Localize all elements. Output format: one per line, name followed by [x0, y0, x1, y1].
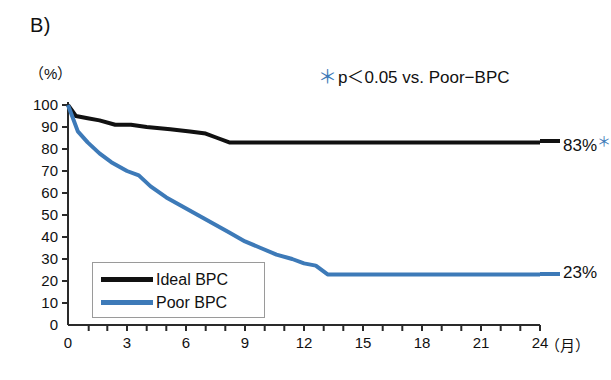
- legend-swatch-poor-bpc: [101, 300, 153, 305]
- endpoint-star-icon-ideal: ＊: [597, 133, 611, 149]
- legend-item-poor-bpc: Poor BPC: [93, 291, 264, 314]
- x-tick-label-18: 18: [407, 334, 437, 351]
- y-tick-label-70: 70: [24, 162, 58, 179]
- y-tick-label-20: 20: [24, 272, 58, 289]
- y-tick-label-40: 40: [24, 228, 58, 245]
- x-tick-label-6: 6: [171, 334, 201, 351]
- legend-label-ideal-bpc: Ideal BPC: [156, 272, 228, 288]
- legend-swatch-ideal-bpc: [101, 277, 153, 282]
- y-tick-label-80: 80: [24, 140, 58, 157]
- endpoint-label-poor: 23%: [563, 263, 597, 283]
- x-tick-label-0: 0: [53, 334, 83, 351]
- y-tick-label-50: 50: [24, 206, 58, 223]
- x-tick-label-3: 3: [112, 334, 142, 351]
- x-tick-label-15: 15: [348, 334, 378, 351]
- legend-item-ideal-bpc: Ideal BPC: [93, 268, 264, 291]
- y-tick-label-100: 100: [24, 96, 58, 113]
- endpoint-value-poor: 23%: [563, 263, 597, 282]
- y-tick-label-90: 90: [24, 118, 58, 135]
- series-line-ideal-bpc: [68, 105, 540, 142]
- endpoint-label-ideal: 83%＊: [563, 130, 611, 156]
- y-tick-label-30: 30: [24, 250, 58, 267]
- y-tick-label-60: 60: [24, 184, 58, 201]
- endpoint-value-ideal: 83%: [563, 136, 597, 155]
- series-line-poor-bpc: [68, 105, 540, 274]
- legend-label-poor-bpc: Poor BPC: [156, 295, 227, 311]
- y-tick-label-10: 10: [24, 294, 58, 311]
- x-tick-label-21: 21: [466, 334, 496, 351]
- chart-legend: Ideal BPC Poor BPC: [92, 262, 265, 318]
- x-tick-label-12: 12: [289, 334, 319, 351]
- x-axis-unit-label: （月）: [545, 334, 590, 355]
- x-tick-label-9: 9: [230, 334, 260, 351]
- y-tick-label-0: 0: [24, 316, 58, 333]
